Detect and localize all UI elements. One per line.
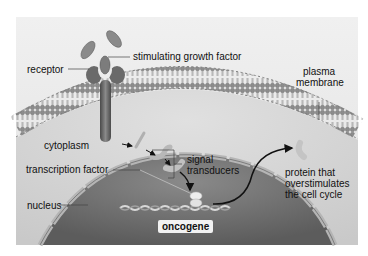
label-nucleus: nucleus [27,200,61,211]
label-oncogene: oncogene [158,220,213,233]
label-transcription-factor: transcription factor [26,164,108,175]
label-cytoplasm: cytoplasm [44,140,89,151]
diagram-canvas [0,0,368,256]
label-receptor: receptor [27,64,64,75]
label-plasma-membrane: plasma membrane [296,66,342,88]
label-stimulating-growth-factor: stimulating growth factor [133,51,241,62]
oncogene-diagram: stimulating growth factor receptor plasm… [0,0,368,256]
label-protein-overstimulates: protein that overstimulates the cell cyc… [285,167,349,200]
label-signal-transducers: signal transducers [187,154,239,176]
